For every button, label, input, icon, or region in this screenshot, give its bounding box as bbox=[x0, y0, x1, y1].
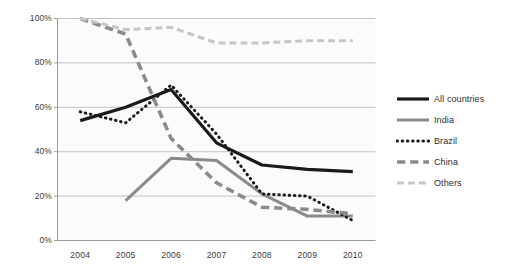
legend-item-all-countries[interactable]: All countries bbox=[396, 88, 509, 109]
x-tick-label: 2005 bbox=[101, 250, 151, 260]
x-tick-label: 2008 bbox=[237, 250, 287, 260]
y-tick-label: 80% bbox=[8, 57, 52, 67]
y-tick-label: 20% bbox=[8, 191, 52, 201]
y-tick-label: 100% bbox=[8, 13, 52, 23]
legend-swatch-icon bbox=[396, 93, 430, 105]
legend-label: Brazil bbox=[434, 136, 457, 146]
x-tick-label: 2007 bbox=[192, 250, 242, 260]
y-tick-label: 60% bbox=[8, 102, 52, 112]
x-tick-label: 2010 bbox=[328, 250, 378, 260]
x-tick-label: 2006 bbox=[146, 250, 196, 260]
legend-label: China bbox=[434, 157, 458, 167]
legend-label: All countries bbox=[434, 94, 484, 104]
legend-item-china[interactable]: China bbox=[396, 151, 509, 172]
legend-item-others[interactable]: Others bbox=[396, 172, 509, 193]
legend-item-brazil[interactable]: Brazil bbox=[396, 130, 509, 151]
legend-label: Others bbox=[434, 178, 462, 188]
legend-item-india[interactable]: India bbox=[396, 109, 509, 130]
x-tick-label: 2009 bbox=[282, 250, 332, 260]
legend-label: India bbox=[434, 115, 454, 125]
x-tick-label: 2004 bbox=[55, 250, 105, 260]
y-tick-label: 40% bbox=[8, 146, 52, 156]
legend-swatch-icon bbox=[396, 114, 430, 126]
legend-swatch-icon bbox=[396, 156, 430, 168]
chart-container: 0%20%40%60%80%100% 200420052006200720082… bbox=[0, 0, 509, 273]
legend-swatch-icon bbox=[396, 177, 430, 189]
y-tick-label: 0% bbox=[8, 235, 52, 245]
legend-swatch-icon bbox=[396, 135, 430, 147]
chart-legend: All countriesIndiaBrazilChinaOthers bbox=[396, 88, 509, 193]
